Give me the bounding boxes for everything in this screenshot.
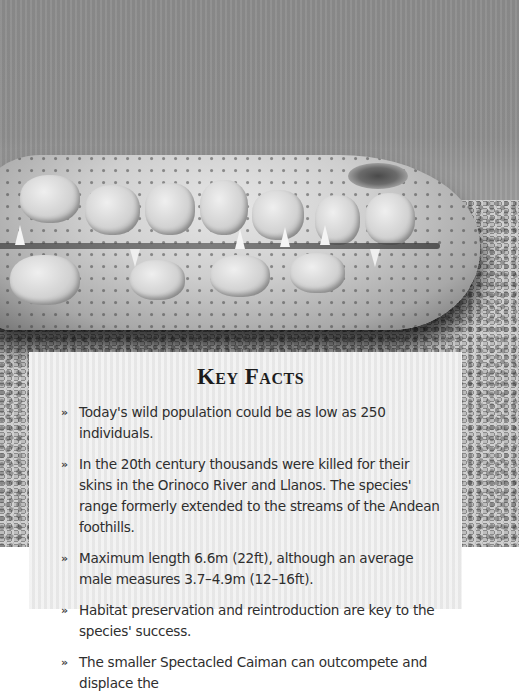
tooth (280, 227, 290, 247)
tooth (370, 249, 380, 267)
bullet-icon: » (61, 652, 79, 673)
bullet-icon: » (61, 402, 79, 423)
scale (20, 175, 80, 223)
scale (365, 193, 415, 245)
bullet-icon: » (61, 548, 79, 569)
tooth (320, 225, 330, 245)
nostril (348, 163, 408, 189)
key-facts-title: Key Facts (61, 364, 440, 390)
scale (145, 183, 195, 235)
fact-item: » The smaller Spectacled Caiman can outc… (61, 652, 440, 694)
scale (200, 180, 248, 235)
bullet-icon: » (61, 454, 79, 475)
fact-text: The smaller Spectacled Caiman can outcom… (79, 652, 440, 694)
scale (252, 190, 304, 240)
scale (10, 255, 80, 305)
key-facts-card: Key Facts » Today's wild population coul… (29, 352, 462, 609)
key-facts-list: » Today's wild population could be as lo… (61, 402, 440, 694)
scale (85, 185, 140, 235)
fact-text: Habitat preservation and reintroduction … (79, 600, 440, 642)
fact-item: » Maximum length 6.6m (22ft), although a… (61, 548, 440, 590)
tooth (15, 225, 25, 245)
scale (210, 255, 270, 297)
fact-text: Today's wild population could be as low … (79, 402, 440, 444)
bullet-icon: » (61, 600, 79, 621)
tooth (235, 229, 245, 249)
tooth (130, 249, 140, 267)
fact-item: » In the 20th century thousands were kil… (61, 454, 440, 538)
scale (290, 253, 345, 293)
fact-item: » Today's wild population could be as lo… (61, 402, 440, 444)
crocodile-snout (0, 155, 480, 330)
fact-text: Maximum length 6.6m (22ft), although an … (79, 548, 440, 590)
fact-item: » Habitat preservation and reintroductio… (61, 600, 440, 642)
fact-text: In the 20th century thousands were kille… (79, 454, 440, 538)
